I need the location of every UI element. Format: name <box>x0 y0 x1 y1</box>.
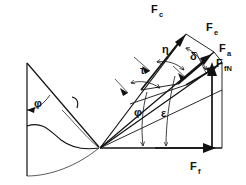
force-label-fa-sub: a <box>227 49 232 58</box>
force-label-ff: F f <box>190 160 201 176</box>
cutting-force-diagram: φ <box>0 0 246 185</box>
angle-label-eta: η <box>162 43 169 55</box>
angle-label-delta: δ <box>190 50 197 62</box>
force-vector-fc-shaft <box>141 41 180 90</box>
chip-flow-outer-arc <box>27 148 99 176</box>
angle-label-phi-tool: φ <box>34 97 42 109</box>
force-label-fa-base: F <box>219 42 226 54</box>
force-label-ff-base: F <box>190 160 197 172</box>
angle-label-epsilon: ε <box>161 107 167 119</box>
force-vectors-group <box>130 34 222 153</box>
tool-geometry-group: φ <box>27 63 99 176</box>
force-label-ff-sub: f <box>198 167 201 176</box>
ray-intermediate <box>100 90 222 148</box>
force-label-ffn-sub: fN <box>224 64 232 73</box>
secondary-shear-curve <box>62 110 98 147</box>
force-label-fc-base: F <box>151 3 158 15</box>
chip-curl-hook <box>72 97 78 108</box>
force-ray-fan-group <box>100 34 222 148</box>
force-label-fc: F c <box>151 3 163 19</box>
force-label-fe: F e <box>206 21 218 37</box>
force-label-fe-sub: e <box>214 28 218 37</box>
force-label-fc-sub: c <box>159 10 163 19</box>
force-label-fa: F a <box>219 42 232 58</box>
force-vector-fe-shaft <box>178 61 205 84</box>
force-label-ffn: F fN <box>216 57 232 73</box>
angle-label-phi-fan: φ <box>134 106 142 118</box>
angle-label-tau: τ <box>140 64 145 76</box>
force-label-ffn-base: F <box>216 57 223 69</box>
ray-to-fe <box>100 52 214 148</box>
polygon-line-inner-lower <box>130 85 186 104</box>
workpiece-surface-curve <box>27 125 99 149</box>
force-vector-ff-head <box>203 143 216 153</box>
force-label-fe-base: F <box>206 21 213 33</box>
ray-to-fc <box>100 34 186 148</box>
